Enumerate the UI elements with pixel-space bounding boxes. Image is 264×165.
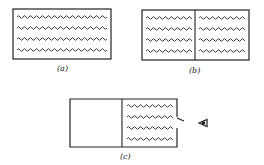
panel-b: (b) xyxy=(142,10,264,75)
panel-label: (a) xyxy=(57,64,68,73)
panel-a: (a) xyxy=(13,9,111,73)
panel-label: (b) xyxy=(189,66,200,75)
shutter-flap xyxy=(177,118,184,121)
figure-canvas: (a) (b) ( xyxy=(0,0,264,165)
gas-region-left xyxy=(146,17,236,53)
panel-label: (c) xyxy=(120,152,131,161)
gas-region-right xyxy=(199,17,264,53)
gas-region xyxy=(17,16,107,52)
eye-icon xyxy=(199,120,207,127)
panel-c: (c) xyxy=(70,99,217,161)
